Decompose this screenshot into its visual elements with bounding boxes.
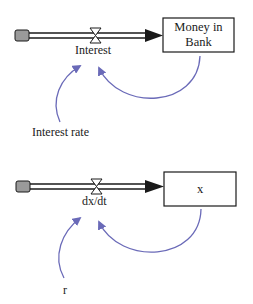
rate-link-arrow xyxy=(59,218,80,278)
valve-icon xyxy=(91,179,102,194)
flow-arrowhead-icon xyxy=(145,29,163,42)
auxiliary-label-r: r xyxy=(63,284,67,297)
stock-label-x: x xyxy=(164,172,236,206)
feedback-link-arrow xyxy=(99,56,200,98)
flow-arrowhead-icon xyxy=(145,180,164,193)
flow-label-dxdt: dx/dt xyxy=(82,195,107,208)
feedback-link-arrow xyxy=(99,209,201,252)
source-cloud-icon xyxy=(16,181,30,192)
stock-label-line2: Bank xyxy=(185,35,211,50)
source-cloud-icon xyxy=(15,30,29,41)
flow-label-interest: Interest xyxy=(75,44,111,57)
diagram-canvas: Interest Money in Bank Interest rate dx/… xyxy=(0,0,253,304)
stock-label-line1: Money in xyxy=(174,20,222,35)
valve-icon xyxy=(90,28,101,43)
stock-label-money-in-bank: Money in Bank xyxy=(163,18,234,52)
stock-label-text: x xyxy=(197,182,203,197)
auxiliary-label-interest-rate: Interest rate xyxy=(32,126,89,139)
rate-link-arrow xyxy=(56,66,80,122)
